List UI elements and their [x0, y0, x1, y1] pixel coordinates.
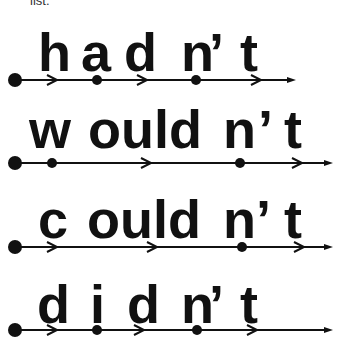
start-dot-icon [8, 240, 22, 254]
sound-dot-icon [191, 75, 201, 85]
arrow-head-icon [287, 77, 296, 83]
start-dot-icon [8, 156, 22, 170]
word-segment: t [284, 102, 302, 156]
arrow-head-icon [324, 160, 333, 166]
sound-arrow-track [0, 237, 339, 257]
sound-arrow-track [0, 70, 339, 90]
contraction-word: hadn’t [0, 15, 339, 75]
word-segment: n [223, 102, 256, 156]
sound-dot-icon [235, 158, 245, 168]
sound-dot-icon [47, 158, 57, 168]
sound-dot-icon [237, 242, 247, 252]
contraction-word: wouldn’t [0, 92, 339, 152]
word-segment: ’ [258, 102, 273, 156]
word-segment: ould [88, 102, 202, 156]
sound-dot-icon [92, 75, 102, 85]
word-segment: w [29, 102, 71, 156]
header-fragment: list. [30, 0, 50, 8]
arrow-head-icon [324, 327, 333, 333]
sound-dot-icon [92, 325, 102, 335]
sound-dot-icon [192, 325, 202, 335]
arrow-head-icon [324, 244, 333, 250]
sound-arrow-track [0, 320, 339, 340]
start-dot-icon [8, 73, 22, 87]
sound-arrow-track [0, 153, 339, 173]
contraction-word: didn’t [0, 267, 339, 327]
contraction-word: couldn’t [0, 182, 339, 242]
start-dot-icon [8, 323, 22, 337]
